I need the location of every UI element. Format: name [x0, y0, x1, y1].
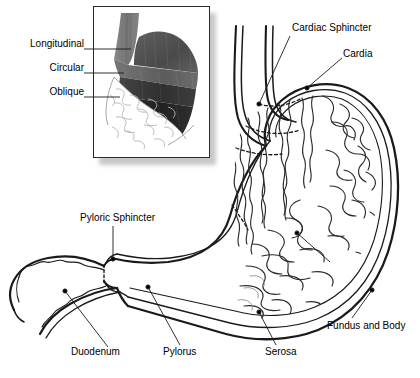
stomach-anatomy-figure: Longitudinal Circular Oblique Cardiac Sp…	[0, 0, 420, 378]
label-oblique: Oblique	[0, 86, 84, 97]
label-serosa: Serosa	[265, 346, 297, 357]
label-cardia: Cardia	[343, 48, 372, 59]
label-pylorus: Pylorus	[163, 346, 196, 357]
label-longitudinal: Longitudinal	[0, 38, 84, 49]
label-cardiac-sphincter: Cardiac Sphincter	[292, 22, 371, 33]
label-circular: Circular	[0, 62, 84, 73]
label-fundus-and-body: Fundus and Body	[327, 320, 405, 331]
label-duodenum: Duodenum	[71, 346, 120, 357]
label-pyloric-sphincter: Pyloric Sphincter	[80, 212, 155, 223]
